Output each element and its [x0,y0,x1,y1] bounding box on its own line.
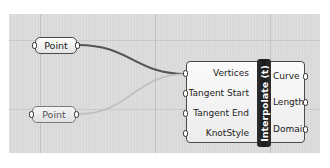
input-grip[interactable] [32,42,37,49]
curve-grip[interactable] [303,73,308,80]
component-name-bar[interactable]: Interpolate (t) [257,59,271,147]
point-param-label: Point [42,109,66,120]
domain-grip[interactable] [303,126,308,133]
input-vertices[interactable]: Vertices [213,68,249,78]
tangent-start-grip[interactable] [183,90,188,97]
point-param-2[interactable]: Point [32,106,76,123]
tangent-end-grip[interactable] [183,110,188,117]
wire-point2-vertices[interactable] [78,74,186,114]
wire-point1-vertices[interactable] [78,45,186,74]
output-curve[interactable]: Curve [273,71,300,81]
input-tangent-start[interactable]: Tangent Start [188,88,249,98]
knotstyle-grip[interactable] [183,130,188,137]
output-grip[interactable] [75,42,80,49]
point-param-label: Point [44,40,68,51]
length-grip[interactable] [303,99,308,106]
vertices-grip[interactable] [183,70,188,77]
output-length[interactable]: Length [273,97,304,107]
input-grip[interactable] [29,111,34,118]
input-tangent-end[interactable]: Tangent End [193,108,249,118]
input-knotstyle[interactable]: KnotStyle [206,128,249,138]
interpolate-component[interactable]: Vertices Tangent Start Tangent End KnotS… [186,61,305,143]
component-name: Interpolate (t) [259,65,270,141]
output-grip[interactable] [74,111,79,118]
point-param-1[interactable]: Point [35,37,77,54]
